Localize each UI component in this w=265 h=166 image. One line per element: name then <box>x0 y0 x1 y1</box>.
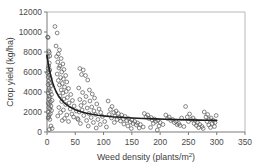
x-tick-label: 0 <box>45 137 50 147</box>
x-tick-label: 350 <box>238 137 252 147</box>
x-axis-title: Weed density (plants/m2) <box>97 151 195 162</box>
y-tick-label: 6000 <box>23 67 42 77</box>
y-tick-label: 2000 <box>23 107 42 117</box>
y-tick-label: 10000 <box>19 27 43 37</box>
x-tick-label: 100 <box>97 137 111 147</box>
x-tick-label: 200 <box>153 137 167 147</box>
chart-figure: 050100150200250300350 020004000600080001… <box>0 0 265 166</box>
x-tick-label: 50 <box>71 137 81 147</box>
y-axis-title: Crop yield (kg/ha) <box>5 37 15 106</box>
x-tick-label: 250 <box>181 137 195 147</box>
y-tick-label: 12000 <box>19 7 43 17</box>
x-tick-label: 300 <box>210 137 224 147</box>
y-tick-label: 4000 <box>23 87 42 97</box>
y-tick-label: 8000 <box>23 47 42 57</box>
scatter-plot-svg: 050100150200250300350 020004000600080001… <box>0 0 265 166</box>
x-tick-label: 150 <box>125 137 139 147</box>
y-tick-label: 0 <box>37 127 42 137</box>
